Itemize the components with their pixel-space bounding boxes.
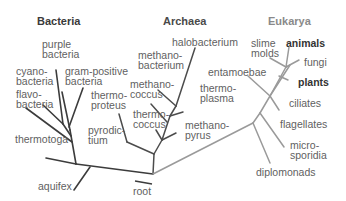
label-animals: animals xyxy=(286,38,325,48)
label-root: root xyxy=(133,186,151,196)
label-thermotoga: thermotoga xyxy=(15,134,68,144)
label-gram-positive-bacteria: gram-positive bacteria xyxy=(65,66,128,86)
label-ciliates: ciliates xyxy=(289,98,321,108)
label-pyrodictium: pyrodic- tium xyxy=(88,125,125,145)
label-plants: plants xyxy=(298,77,329,87)
label-fungi: fungi xyxy=(304,57,327,67)
root-marker xyxy=(135,181,152,184)
label-methanobacterium: methano- bacterium xyxy=(138,50,184,70)
label-cyanobacteria: cyano- bacteria xyxy=(16,66,53,86)
label-aquifex: aquifex xyxy=(38,181,72,191)
label-methanopyrus: methano- pyrus xyxy=(185,120,229,140)
label-entamoebae: entamoebae xyxy=(208,67,266,77)
label-methanococcus: methano- coccus xyxy=(130,79,174,99)
domain-bacteria: Bacteria xyxy=(37,16,80,27)
label-flavobacteria: flavo- bacteria xyxy=(16,89,53,109)
label-thermoproteus: thermo- proteus xyxy=(91,90,127,110)
domain-archaea: Archaea xyxy=(163,16,206,27)
label-thermoplasma: thermo- plasma xyxy=(200,83,236,103)
label-purple-bacteria: purple bacteria xyxy=(42,39,79,59)
label-flagellates: flagellates xyxy=(280,119,327,129)
label-thermococcus: thermo- coccus xyxy=(133,109,169,129)
label-slime-molds: slime molds xyxy=(251,38,279,58)
label-halobacterium: halobacterium xyxy=(172,37,238,47)
domain-eukarya: Eukarya xyxy=(268,16,311,27)
label-diplomonads: diplomonads xyxy=(256,167,316,177)
label-microsporidia: micro- sporidia xyxy=(290,140,327,160)
